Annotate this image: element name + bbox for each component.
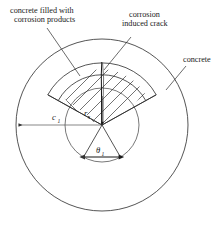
corrosion-crack-diagram: concrete filled with corrosion products … (0, 0, 219, 234)
cover-symbol: c (52, 112, 56, 122)
concrete-label: concrete (183, 55, 211, 64)
induced-crack-label-line2: induced crack (122, 19, 169, 28)
wedge-band-ticks (58, 89, 84, 118)
corrosion-products-leader-line (47, 28, 80, 76)
induced-crack-label-line1: corrosion (129, 10, 160, 19)
wedge-angle-symbol: θ (96, 145, 101, 155)
concrete-leader-line (166, 66, 186, 90)
corrosion-induced-crack-line (101, 62, 102, 125)
cover-symbol-subscript: 1 (58, 118, 61, 124)
wedge-angle-symbol-subscript: 1 (102, 151, 105, 157)
theta-right-ray (102, 125, 121, 158)
rebar-radius-symbol-subscript: s (88, 114, 90, 120)
corrosion-products-label-line1: concrete filled with (10, 6, 74, 15)
diagram-canvas: concrete filled with corrosion products … (0, 0, 219, 234)
corrosion-induced-crack-line-secondary (103, 63, 104, 125)
corrosion-products-label-line2: corrosion products (14, 15, 75, 24)
